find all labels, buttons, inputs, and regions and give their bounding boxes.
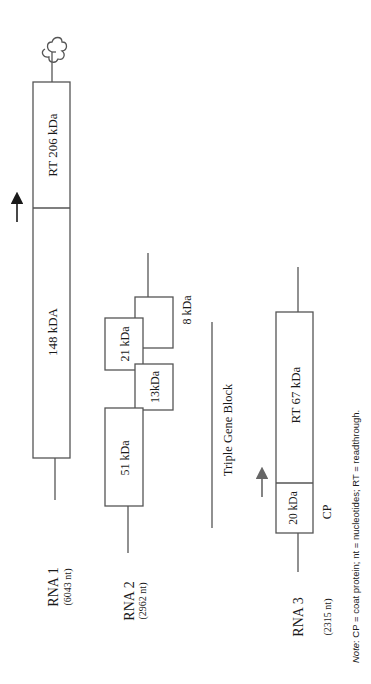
rna3-20kda-label: 20 kDa: [287, 491, 299, 525]
rna2-group: 21 kDa 13kDa 51 kDa 8 kDa Triple Gene Bl…: [105, 253, 235, 621]
rna2-21kda-label: 21 kDa: [118, 326, 132, 362]
rna3-rt67-label: RT 67 kDa: [288, 366, 303, 423]
cloverleaf-icon: [42, 38, 66, 63]
triple-gene-block-label: Triple Gene Block: [221, 383, 235, 476]
rna2-51kda-label: 51 kDa: [118, 440, 132, 476]
rna1-rt206-label: RT 206 kDa: [45, 113, 60, 176]
rna1-148-label: 148 kDA: [45, 307, 60, 356]
rna2-13kda-label: 13kDa: [148, 370, 162, 403]
rna1-length: (6043 nt): [62, 569, 74, 606]
rna2-8kda-label: 8 kDa: [180, 295, 194, 325]
rna1-label: RNA 1: [46, 567, 61, 606]
genome-diagram: RT 206 kDa 148 kDA RNA 1 (6043 nt) 21 kD…: [0, 0, 371, 684]
note-prefix: Note: [350, 643, 361, 663]
cp-label: CP: [320, 504, 334, 519]
rna1-group: RT 206 kDa 148 kDA RNA 1 (6043 nt): [17, 38, 74, 607]
rna3-group: RT 67 kDa 20 kDa CP RNA 3 (2315 nt): [262, 267, 334, 637]
figure-note: Note: CP = coat protein; nt = nucleotide…: [350, 410, 361, 663]
note-text: : CP = coat protein; nt = nucleotides; R…: [350, 410, 361, 643]
rna3-length: (2315 nt): [322, 599, 334, 636]
rna2-length: (2962 nt): [137, 583, 149, 620]
rna3-label: RNA 3: [291, 597, 306, 636]
rna2-label: RNA 2: [122, 581, 137, 620]
